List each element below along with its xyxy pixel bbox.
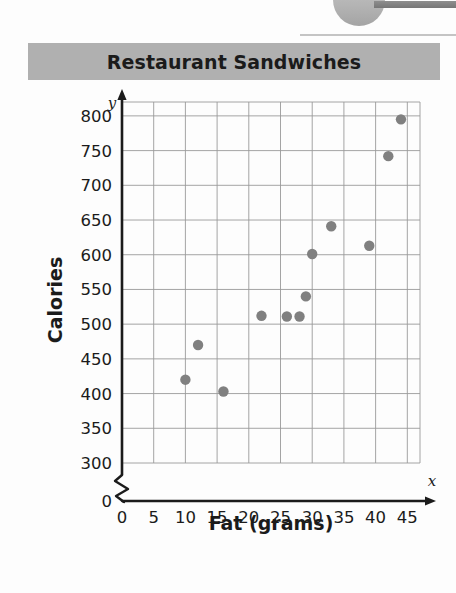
data-point bbox=[256, 311, 266, 321]
decorative-rule bbox=[300, 34, 456, 36]
y-origin-label: 0 bbox=[102, 492, 113, 511]
y-axis-title: Calories bbox=[44, 257, 66, 343]
data-points bbox=[180, 114, 406, 397]
chart-title: Restaurant Sandwiches bbox=[107, 51, 361, 73]
data-point bbox=[282, 311, 292, 321]
x-tick-label: 40 bbox=[365, 508, 386, 527]
x-tick-label: 10 bbox=[175, 508, 196, 527]
y-tick-label: 350 bbox=[81, 419, 113, 438]
y-tick-label: 750 bbox=[81, 142, 113, 161]
data-point bbox=[180, 374, 190, 384]
scatter-plot: 3003504004505005506006507007508000051015… bbox=[0, 88, 456, 558]
x-axis-arrow bbox=[425, 496, 436, 505]
data-point bbox=[294, 311, 304, 321]
data-point bbox=[218, 386, 228, 396]
y-tick-label: 550 bbox=[81, 280, 113, 299]
plot-svg: 3003504004505005506006507007508000051015… bbox=[0, 88, 456, 558]
data-point bbox=[307, 249, 317, 259]
chart-page: Restaurant Sandwiches 300350400450500550… bbox=[0, 0, 456, 593]
y-variable-label: y bbox=[107, 94, 117, 112]
y-tick-label: 500 bbox=[81, 315, 113, 334]
x-tick-label: 0 bbox=[117, 508, 128, 527]
data-point bbox=[383, 151, 393, 161]
data-point bbox=[364, 241, 374, 251]
y-tick-label: 400 bbox=[81, 385, 113, 404]
x-variable-label: x bbox=[428, 472, 437, 490]
axis-break-symbol bbox=[115, 475, 128, 502]
x-tick-label: 5 bbox=[148, 508, 159, 527]
x-tick-label: 35 bbox=[333, 508, 354, 527]
y-tick-label: 700 bbox=[81, 176, 113, 195]
y-tick-label: 650 bbox=[81, 211, 113, 230]
y-tick-label: 300 bbox=[81, 454, 113, 473]
gridlines bbox=[122, 102, 420, 463]
data-point bbox=[396, 114, 406, 124]
chart-title-banner: Restaurant Sandwiches bbox=[28, 43, 440, 80]
y-tick-label: 600 bbox=[81, 246, 113, 265]
x-axis-title: Fat (grams) bbox=[209, 512, 334, 534]
y-tick-label: 450 bbox=[81, 350, 113, 369]
data-point bbox=[301, 291, 311, 301]
data-point bbox=[326, 221, 336, 231]
data-point bbox=[193, 340, 203, 350]
x-tick-label: 45 bbox=[397, 508, 418, 527]
y-axis-arrow bbox=[117, 89, 126, 100]
decorative-tab-bar bbox=[374, 1, 456, 8]
